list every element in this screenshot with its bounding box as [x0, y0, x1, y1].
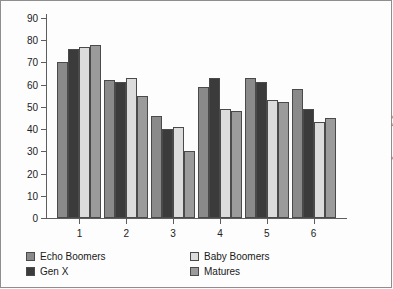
legend-item-matures[interactable]: Matures: [190, 266, 354, 277]
y-axis-tick: [41, 174, 47, 175]
y-tick-group: 80: [46, 40, 47, 41]
bar-echo-boomers-1: [57, 62, 68, 218]
y-tick-group: 10: [46, 196, 47, 197]
y-axis-tick-label: 80: [27, 35, 38, 46]
bar-group: [104, 14, 148, 218]
bar-gen-x-5: [256, 82, 267, 218]
bar-matures-1: [90, 45, 101, 218]
bar-gen-x-4: [209, 78, 220, 218]
bar-group: [57, 14, 101, 218]
x-axis-line: [46, 218, 347, 219]
legend-item-gen-x[interactable]: Gen X: [26, 266, 190, 277]
bar-baby-boomers-4: [220, 109, 231, 218]
y-axis-tick: [41, 129, 47, 130]
bar-matures-2: [137, 96, 148, 218]
bar-matures-3: [184, 151, 195, 218]
x-axis-tick: [126, 218, 127, 224]
bar-chart-figure: 0102030405060708090 123456 Echo BoomersB…: [0, 0, 393, 289]
y-axis-tick-label: 0: [32, 213, 38, 224]
y-axis-tick: [41, 40, 47, 41]
bar-echo-boomers-2: [104, 80, 115, 218]
y-tick-group: 60: [46, 85, 47, 86]
legend-swatch-icon: [190, 252, 199, 261]
y-axis-tick-label: 40: [27, 124, 38, 135]
x-axis-tick-label: 5: [264, 228, 270, 239]
y-tick-group: 40: [46, 129, 47, 130]
bar-baby-boomers-1: [79, 47, 90, 218]
y-tick-group: 70: [46, 62, 47, 63]
y-axis-tick-label: 10: [27, 190, 38, 201]
y-axis-line: [46, 14, 47, 219]
x-axis-tick-label: 1: [77, 228, 83, 239]
y-axis-tick: [41, 196, 47, 197]
y-axis-tick: [41, 151, 47, 152]
y-axis-tick: [41, 18, 47, 19]
bar-matures-6: [325, 118, 336, 218]
bar-matures-4: [231, 111, 242, 218]
legend-label: Matures: [204, 266, 240, 277]
y-tick-group: 30: [46, 151, 47, 152]
legend-swatch-icon: [26, 267, 35, 276]
x-axis-tick: [173, 218, 174, 224]
bar-gen-x-3: [162, 129, 173, 218]
y-axis-tick-label: 20: [27, 168, 38, 179]
y-axis-tick: [41, 62, 47, 63]
x-axis-tick: [79, 218, 80, 224]
bar-gen-x-1: [68, 49, 79, 218]
x-axis-tick-label: 3: [170, 228, 176, 239]
y-axis-tick-label: 50: [27, 101, 38, 112]
y-axis-tick-label: 30: [27, 146, 38, 157]
legend-item-echo-boomers[interactable]: Echo Boomers: [26, 251, 190, 262]
y-tick-group: 20: [46, 174, 47, 175]
bar-baby-boomers-5: [267, 100, 278, 218]
x-axis-tick: [314, 218, 315, 224]
bar-matures-5: [278, 102, 289, 218]
y-axis-tick: [41, 218, 47, 219]
bar-gen-x-2: [115, 82, 126, 218]
y-tick-group: 0: [46, 218, 47, 219]
legend-label: Echo Boomers: [40, 251, 106, 262]
bar-echo-boomers-5: [245, 78, 256, 218]
bar-group: [198, 14, 242, 218]
legend-label: Gen X: [40, 266, 68, 277]
x-axis-tick: [220, 218, 221, 224]
y-axis-tick-label: 60: [27, 79, 38, 90]
bar-echo-boomers-3: [151, 116, 162, 218]
x-axis-tick: [267, 218, 268, 224]
bar-echo-boomers-6: [292, 89, 303, 218]
y-axis-tick-label: 90: [27, 13, 38, 24]
bar-baby-boomers-2: [126, 78, 137, 218]
y-tick-group: 90: [46, 18, 47, 19]
bar-echo-boomers-4: [198, 87, 209, 218]
bar-group: [151, 14, 195, 218]
x-axis-tick-label: 2: [123, 228, 129, 239]
plot-area: 0102030405060708090 123456: [46, 14, 347, 219]
legend-swatch-icon: [26, 252, 35, 261]
x-axis-tick-label: 4: [217, 228, 223, 239]
bar-baby-boomers-3: [173, 127, 184, 218]
y-axis-tick: [41, 107, 47, 108]
bar-group: [245, 14, 289, 218]
chart-legend: Echo BoomersBaby BoomersGen XMatures: [26, 249, 326, 279]
legend-swatch-icon: [190, 267, 199, 276]
y-tick-group: 50: [46, 107, 47, 108]
legend-label: Baby Boomers: [204, 251, 270, 262]
y-axis-tick-label: 70: [27, 57, 38, 68]
bar-baby-boomers-6: [314, 122, 325, 218]
bar-group: [292, 14, 336, 218]
legend-item-baby-boomers[interactable]: Baby Boomers: [190, 251, 354, 262]
y-axis-tick: [41, 85, 47, 86]
bar-gen-x-6: [303, 109, 314, 218]
x-axis-tick-label: 6: [311, 228, 317, 239]
